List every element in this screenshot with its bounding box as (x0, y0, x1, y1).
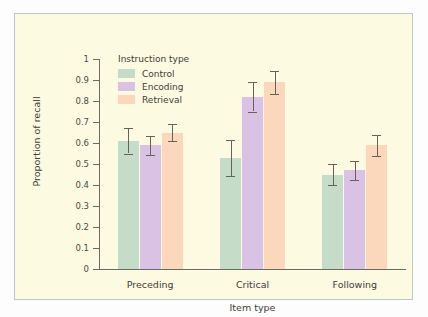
legend-entries: ControlEncodingRetrieval (118, 67, 228, 106)
error-bar (172, 124, 173, 141)
legend-swatch (118, 95, 135, 104)
error-bar (150, 136, 151, 155)
legend-swatch (118, 69, 135, 78)
error-bar (333, 164, 334, 185)
y-axis-tick-label: 0.2 (47, 223, 89, 232)
error-bar-cap-upper (372, 135, 381, 136)
error-bar-cap-lower (372, 156, 381, 157)
error-bar-cap-lower (328, 185, 337, 186)
legend-label: Control (142, 69, 175, 79)
figure-frame: 10.90.80.70.60.50.40.30.20.10 Proportion… (14, 13, 413, 300)
x-axis-title: Item type (99, 302, 406, 313)
y-axis-tick-label: 0.3 (47, 202, 89, 211)
error-bar-cap-lower (270, 94, 279, 95)
error-bar-cap-upper (328, 164, 337, 165)
x-axis-line (99, 269, 406, 270)
legend-entry: Control (118, 67, 228, 80)
y-axis-tick-label: 1 (47, 55, 89, 64)
y-axis-tick-label: 0.6 (47, 139, 89, 148)
error-bar (253, 82, 254, 111)
bar (118, 141, 139, 269)
error-bar (231, 140, 232, 176)
bar (242, 97, 263, 269)
legend-title: Instruction type (118, 54, 228, 64)
error-bar-cap-upper (270, 71, 279, 72)
bar (264, 82, 285, 269)
error-bar (128, 128, 129, 153)
error-bar-cap-upper (168, 124, 177, 125)
figure-root: 10.90.80.70.60.50.40.30.20.10 Proportion… (0, 0, 428, 317)
bar (140, 145, 161, 269)
y-axis-tick-label: 0 (47, 265, 89, 274)
error-bar-cap-upper (350, 161, 359, 162)
error-bar-cap-upper (248, 82, 257, 83)
legend-swatch (118, 82, 135, 91)
error-bar-cap-lower (124, 154, 133, 155)
bar (322, 175, 343, 270)
legend-label: Retrieval (142, 95, 182, 105)
error-bar (355, 161, 356, 180)
error-bar (377, 135, 378, 156)
y-axis-tick-label: 0.9 (47, 76, 89, 85)
error-bar-cap-lower (248, 112, 257, 113)
bar (366, 145, 387, 269)
y-axis-tick-label: 0.8 (47, 97, 89, 106)
error-bar-cap-upper (146, 136, 155, 137)
bar (344, 170, 365, 269)
y-axis-tick-label: 0.1 (47, 244, 89, 253)
legend-entry: Retrieval (118, 93, 228, 106)
error-bar-cap-lower (146, 155, 155, 156)
y-axis-tick-label: 0.4 (47, 181, 89, 190)
y-axis-tick (93, 269, 99, 270)
legend: Instruction type ControlEncodingRetrieva… (118, 54, 228, 106)
x-axis-category-label: Following (310, 279, 400, 290)
legend-entry: Encoding (118, 80, 228, 93)
error-bar-cap-upper (226, 140, 235, 141)
legend-label: Encoding (142, 82, 183, 92)
error-bar-cap-lower (350, 180, 359, 181)
error-bar-cap-lower (168, 141, 177, 142)
y-axis-title: Proportion of recall (31, 77, 42, 207)
bar (162, 133, 183, 270)
x-axis-category-label: Critical (208, 279, 298, 290)
y-axis-tick-labels: 10.90.80.70.60.50.40.30.20.10 (45, 14, 89, 317)
x-axis-category-label: Preceding (105, 279, 195, 290)
error-bar (275, 71, 276, 94)
y-axis-tick-label: 0.5 (47, 160, 89, 169)
y-axis-tick-label: 0.7 (47, 118, 89, 127)
error-bar-cap-upper (124, 128, 133, 129)
error-bar-cap-lower (226, 176, 235, 177)
